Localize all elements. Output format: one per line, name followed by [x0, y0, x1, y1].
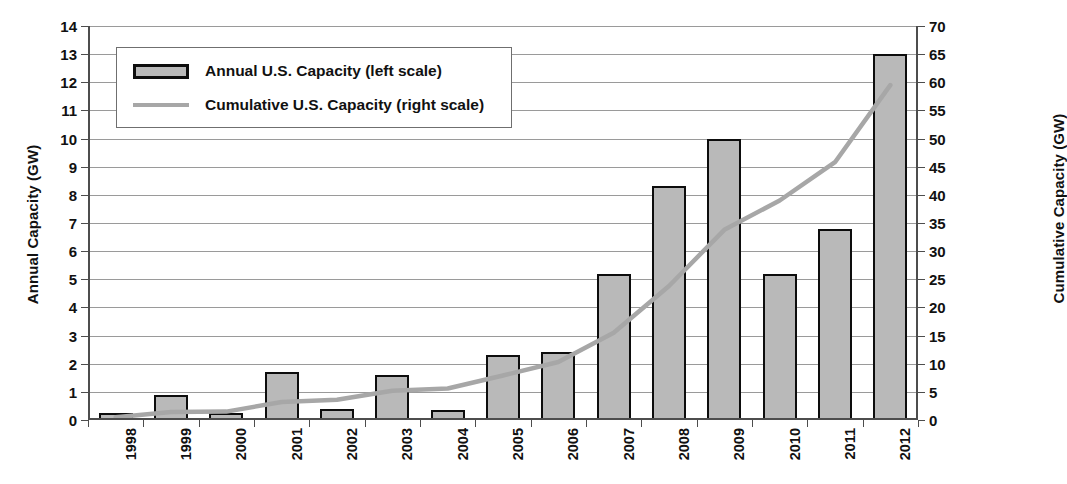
y-tick-label-right: 35 — [929, 215, 946, 232]
y-tick-label-right: 10 — [929, 355, 946, 372]
x-tick-label: 2009 — [731, 428, 747, 460]
y-tick-left — [81, 251, 88, 252]
y-tick-label-left: 2 — [69, 355, 77, 372]
y-tick-label-left: 5 — [69, 271, 77, 288]
x-tick — [697, 420, 698, 427]
x-tick — [807, 420, 808, 427]
y-tick-right — [918, 307, 925, 308]
x-tick — [88, 420, 89, 427]
y-axis-left-title: Annual Capacity (GW) — [24, 105, 41, 345]
y-tick-right — [918, 279, 925, 280]
x-tick-label: 2001 — [289, 428, 305, 460]
y-axis-right-line — [916, 26, 918, 420]
y-tick-label-left: 9 — [69, 158, 77, 175]
y-axis-right-title: Cumulative Capacity (GW) — [1050, 89, 1067, 329]
y-tick-label-right: 45 — [929, 158, 946, 175]
y-tick-left — [81, 26, 88, 27]
legend-item-cumulative: Cumulative U.S. Capacity (right scale) — [133, 90, 503, 120]
y-tick-label-left: 0 — [69, 412, 77, 429]
x-tick-label: 2008 — [676, 428, 692, 460]
x-tick — [752, 420, 753, 427]
x-tick-label: 2004 — [455, 428, 471, 460]
y-tick-label-right: 5 — [929, 383, 937, 400]
y-tick-left — [81, 167, 88, 168]
x-tick-label: 2002 — [344, 428, 360, 460]
y-tick-right — [918, 139, 925, 140]
y-tick-label-left: 6 — [69, 243, 77, 260]
x-tick — [531, 420, 532, 427]
x-tick — [365, 420, 366, 427]
x-tick — [863, 420, 864, 427]
y-tick-label-left: 7 — [69, 215, 77, 232]
y-tick-left — [81, 139, 88, 140]
y-tick-label-right: 30 — [929, 243, 946, 260]
x-tick — [309, 420, 310, 427]
y-tick-right — [918, 364, 925, 365]
x-tick-label: 2011 — [842, 428, 858, 459]
y-tick-right — [918, 167, 925, 168]
y-tick-left — [81, 82, 88, 83]
y-tick-label-right: 0 — [929, 412, 937, 429]
y-tick-right — [918, 110, 925, 111]
y-tick-label-right: 60 — [929, 74, 946, 91]
y-tick-label-right: 15 — [929, 327, 946, 344]
y-tick-label-left: 13 — [60, 46, 77, 63]
legend-item-annual: Annual U.S. Capacity (left scale) — [133, 56, 503, 86]
y-tick-label-left: 4 — [69, 299, 77, 316]
y-tick-left — [81, 54, 88, 55]
chart-legend: Annual U.S. Capacity (left scale) Cumula… — [116, 47, 512, 128]
y-tick-label-left: 10 — [60, 130, 77, 147]
y-tick-label-right: 20 — [929, 299, 946, 316]
y-tick-left — [81, 110, 88, 111]
y-tick-right — [918, 195, 925, 196]
y-tick-left — [81, 195, 88, 196]
y-tick-left — [81, 364, 88, 365]
x-tick-label: 1999 — [178, 428, 194, 460]
y-tick-left — [81, 392, 88, 393]
x-tick — [143, 420, 144, 427]
cumulative-line — [116, 85, 891, 417]
y-tick-left — [81, 420, 88, 421]
y-tick-left — [81, 279, 88, 280]
x-axis-line — [88, 418, 918, 420]
legend-label-cumulative: Cumulative U.S. Capacity (right scale) — [205, 96, 484, 114]
y-tick-right — [918, 420, 925, 421]
x-tick — [586, 420, 587, 427]
y-tick-label-left: 3 — [69, 327, 77, 344]
y-tick-right — [918, 336, 925, 337]
line-swatch-icon — [133, 103, 189, 107]
y-tick-label-left: 11 — [61, 102, 77, 119]
y-tick-label-left: 8 — [69, 186, 77, 203]
y-tick-left — [81, 223, 88, 224]
x-tick — [475, 420, 476, 427]
y-tick-right — [918, 54, 925, 55]
bar-swatch-icon — [133, 64, 189, 79]
y-tick-label-right: 70 — [929, 18, 946, 35]
y-axis-left-line — [88, 26, 90, 420]
y-tick-label-right: 50 — [929, 130, 946, 147]
y-tick-left — [81, 307, 88, 308]
x-tick-label: 2005 — [510, 428, 526, 460]
x-tick — [254, 420, 255, 427]
x-tick — [918, 420, 919, 427]
legend-label-annual: Annual U.S. Capacity (left scale) — [205, 62, 442, 80]
y-tick-right — [918, 251, 925, 252]
x-tick-label: 2012 — [897, 428, 913, 460]
y-tick-label-left: 12 — [60, 74, 77, 91]
y-tick-right — [918, 82, 925, 83]
x-tick-label: 2000 — [233, 428, 249, 460]
x-tick-label: 1998 — [123, 428, 139, 460]
y-tick-label-left: 1 — [69, 383, 77, 400]
x-tick — [641, 420, 642, 427]
y-tick-label-right: 40 — [929, 186, 946, 203]
y-tick-right — [918, 26, 925, 27]
y-tick-label-right: 25 — [929, 271, 946, 288]
x-tick — [420, 420, 421, 427]
y-tick-label-right: 65 — [929, 46, 946, 63]
x-tick-label: 2003 — [399, 428, 415, 460]
y-tick-label-right: 55 — [929, 102, 946, 119]
y-tick-left — [81, 336, 88, 337]
y-tick-right — [918, 392, 925, 393]
x-tick — [199, 420, 200, 427]
